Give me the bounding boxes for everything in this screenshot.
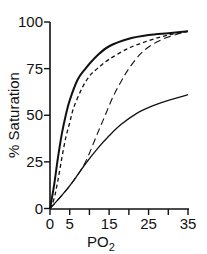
y-tick-label: 75 xyxy=(26,60,43,77)
oxygen-saturation-chart: 0255075100 05152535 % Saturation PO2 xyxy=(0,0,207,254)
x-tick-label: 35 xyxy=(180,215,197,232)
plot-lines xyxy=(50,31,188,208)
x-tick-label: 0 xyxy=(46,215,54,232)
x-axis: 05152535 xyxy=(46,209,197,232)
x-tick-label: 5 xyxy=(66,215,74,232)
curve-2-short-dash xyxy=(50,31,188,208)
x-axis-title: PO2 xyxy=(87,233,115,253)
x-tick-label: 25 xyxy=(140,215,157,232)
x-tick-label: 15 xyxy=(101,215,118,232)
y-tick-label: 0 xyxy=(35,200,43,217)
y-tick-label: 50 xyxy=(26,106,43,123)
y-tick-label: 25 xyxy=(26,153,43,170)
y-tick-label: 100 xyxy=(18,13,43,30)
y-axis-title: % Saturation xyxy=(5,72,22,158)
curve-4-solid-thin xyxy=(50,95,188,209)
y-axis: 0255075100 xyxy=(18,13,50,217)
